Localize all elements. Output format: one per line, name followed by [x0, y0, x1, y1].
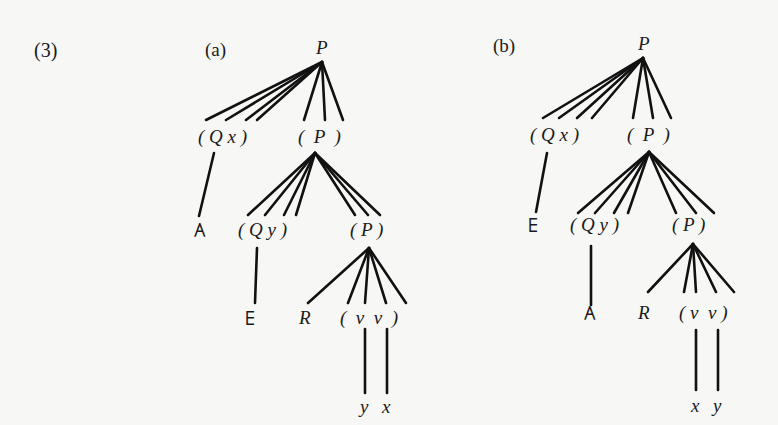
tree-a-label: (a)	[205, 40, 226, 59]
tree-a-variable-2: x	[382, 397, 390, 416]
tree-b-variable-2: y	[713, 396, 721, 415]
tree-a-argument-list: ( ν ν )	[340, 308, 398, 327]
tree-a-quantifier-phrase-x: ( Q x )	[198, 127, 247, 146]
tree-b-quantifier-phrase-y: ( Q y )	[570, 215, 619, 234]
tree-b-variable-1: x	[691, 396, 699, 415]
tree-a-exists-symbol: ∀	[194, 220, 205, 239]
tree-a-variable-1: y	[360, 397, 368, 416]
tree-a-sentence-node: ( P )	[298, 127, 341, 146]
tree-b-sentence-node: ( P )	[627, 125, 670, 144]
tree-b-root-node: P	[638, 34, 650, 53]
tree-b-exists-symbol: ∀	[584, 303, 595, 322]
example-number: (3)	[34, 40, 57, 60]
tree-a-quantifier-phrase-y: ( Q y )	[238, 220, 287, 239]
tree-b-argument-list: ( ν ν )	[679, 303, 728, 322]
tree-b-predicate-r: R	[638, 303, 650, 322]
tree-a-predicate-r: R	[299, 308, 311, 327]
tree-b-forall-symbol: ∃	[528, 215, 538, 234]
tree-b-inner-sentence-node: ( P )	[672, 215, 705, 234]
tree-a-inner-sentence-node: ( P )	[350, 220, 383, 239]
tree-b-quantifier-phrase-x: ( Q x )	[530, 125, 579, 144]
tree-diagram: (3) (a) P ( Q x ) ( P ) ∀ ( Q y ) ( P ) …	[0, 0, 778, 425]
tree-edges	[0, 0, 778, 425]
tree-a-root-node: P	[316, 38, 328, 57]
tree-a-forall-symbol: ∃	[245, 308, 255, 327]
tree-b-label: (b)	[493, 36, 515, 55]
